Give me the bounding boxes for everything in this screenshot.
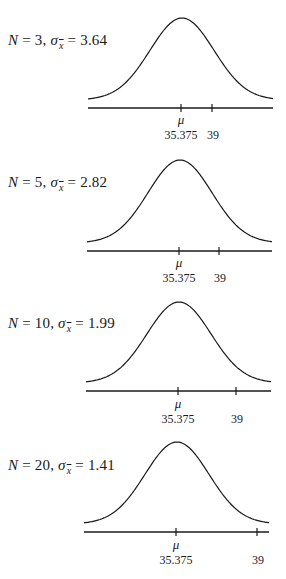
mean-value: 35.375	[160, 553, 193, 568]
mu-symbol: μ	[173, 537, 180, 553]
label-n20: N = 20, σx = 1.41	[8, 457, 115, 474]
normal-curve-n20	[0, 0, 286, 579]
reference-value: 39	[252, 553, 264, 568]
